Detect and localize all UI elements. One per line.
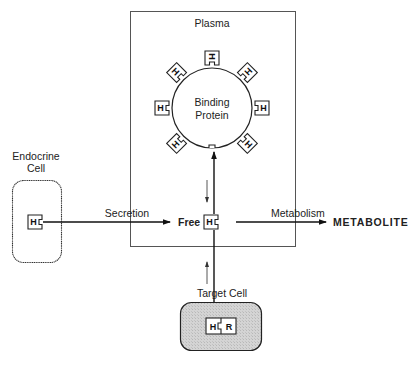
binding-protein-label-line1: Binding: [194, 96, 229, 108]
target-cell-label: Target Cell: [197, 287, 247, 299]
hormone-symbol: H: [207, 53, 217, 60]
endocrine-cell-label-line2: Cell: [27, 162, 45, 174]
metabolism-label: Metabolism: [271, 207, 325, 219]
plasma-label: Plasma: [194, 17, 229, 29]
hormone-receptor-complex: H R: [206, 318, 236, 334]
svg-text:H: H: [206, 217, 213, 227]
endocrine-cell-label-line1: Endocrine: [12, 150, 59, 162]
binding-protein: Binding Protein: [172, 68, 252, 148]
empty-binding-site: [209, 145, 215, 148]
free-hormone: H: [204, 215, 218, 229]
hormone-symbol: H: [157, 103, 164, 113]
bound-hormone: H: [205, 51, 219, 65]
secretion-label: Secretion: [105, 207, 150, 219]
metabolite-label: METABOLITE: [333, 216, 408, 228]
free-label: Free: [178, 216, 200, 228]
svg-text:H: H: [30, 217, 37, 227]
hormone-symbol: H: [260, 103, 267, 113]
bound-hormone: H: [155, 101, 169, 115]
hormone-transport-diagram: Plasma Binding Protein HHHHHHH Endocrine…: [0, 0, 418, 366]
bound-hormone: H: [255, 101, 269, 115]
binding-protein-label-line2: Protein: [195, 109, 228, 121]
hormone-symbol: H: [210, 322, 217, 332]
receptor-symbol: R: [226, 322, 233, 332]
